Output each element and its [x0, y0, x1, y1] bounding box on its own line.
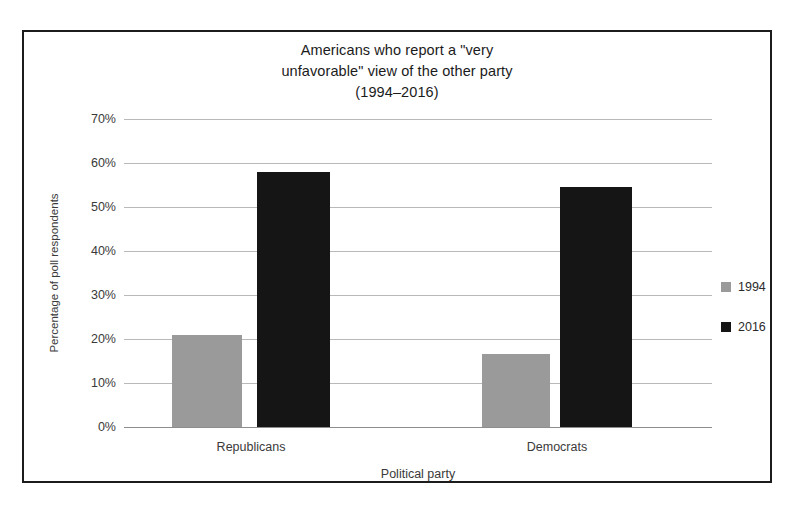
legend-swatch-2016-icon: [721, 322, 731, 332]
y-tick-label-20: 20%: [91, 332, 116, 346]
y-tick-label-50: 50%: [91, 200, 116, 214]
bar-republicans-1994[interactable]: [172, 335, 242, 427]
chart-title-line-3: (1994–2016): [24, 82, 770, 103]
gridline-60: 60%: [124, 163, 712, 164]
x-tick-label-democrats: Democrats: [527, 440, 587, 454]
legend-label-1994: 1994: [738, 280, 766, 294]
chart-title: Americans who report a "very unfavorable…: [24, 40, 770, 103]
y-tick-label-40: 40%: [91, 244, 116, 258]
x-tick-label-republicans: Republicans: [217, 440, 286, 454]
bar-democrats-1994[interactable]: [482, 354, 550, 427]
chart-figure-frame: Americans who report a "very unfavorable…: [22, 30, 772, 483]
chart-title-line-1: Americans who report a "very: [24, 40, 770, 61]
y-axis-title: Percentage of poll respondents: [48, 193, 60, 352]
y-tick-label-60: 60%: [91, 156, 116, 170]
x-axis-title: Political party: [124, 467, 712, 481]
y-tick-label-30: 30%: [91, 288, 116, 302]
legend-item-1994[interactable]: 1994: [721, 280, 766, 294]
legend-label-2016: 2016: [738, 320, 766, 334]
gridline-70: 70%: [124, 119, 712, 120]
gridline-0-baseline: 0%: [124, 427, 712, 428]
y-tick-label-70: 70%: [91, 112, 116, 126]
plot-area: 70% 60% 50% 40% 30% 20% 10% 0% Republica…: [124, 119, 712, 427]
legend-item-2016[interactable]: 2016: [721, 320, 766, 334]
chart-legend: 1994 2016: [721, 280, 766, 360]
y-tick-label-10: 10%: [91, 376, 116, 390]
bar-republicans-2016[interactable]: [257, 172, 330, 427]
y-tick-label-0: 0%: [98, 420, 116, 434]
chart-title-line-2: unfavorable" view of the other party: [24, 61, 770, 82]
bar-democrats-2016[interactable]: [560, 187, 632, 427]
legend-swatch-1994-icon: [721, 282, 731, 292]
